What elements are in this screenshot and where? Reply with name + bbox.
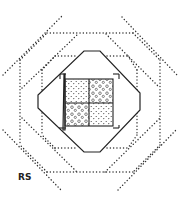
grid-cell-top-left (65, 79, 89, 103)
rs-label: RS (18, 172, 31, 182)
inner-square-grid (65, 79, 113, 126)
grid-cell-bottom-right (89, 103, 113, 126)
diagram-canvas: RS (0, 0, 184, 211)
grid-cell-bottom-left (65, 103, 89, 126)
grid-cell-top-right (89, 79, 113, 103)
